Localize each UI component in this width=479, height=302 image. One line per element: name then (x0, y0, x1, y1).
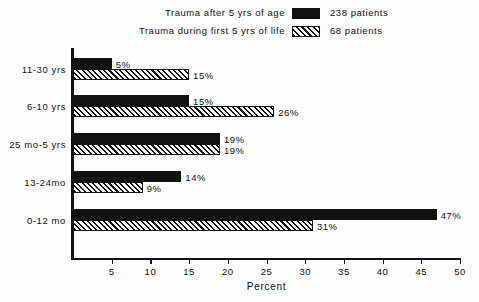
bar-value-label: 31% (317, 221, 338, 232)
bar (73, 106, 274, 117)
bar-value-label: 19% (224, 145, 245, 156)
x-axis-tick-label: 10 (145, 266, 157, 277)
bar (73, 209, 437, 220)
legend-item-count: 238 patients (330, 7, 388, 18)
x-axis-tick-label: 20 (222, 266, 234, 277)
bar-value-label: 14% (185, 172, 206, 183)
bar (73, 133, 220, 144)
bar (73, 58, 112, 69)
x-axis-tick-label: 25 (261, 266, 273, 277)
bar (73, 171, 181, 182)
bar (73, 69, 189, 80)
x-axis-tick (460, 258, 461, 264)
x-axis-tick-label: 35 (338, 266, 350, 277)
bar (73, 144, 220, 155)
x-axis-tick (344, 258, 345, 264)
bar-value-label: 47% (441, 210, 462, 221)
x-axis-tick (150, 258, 151, 264)
bar-value-label: 15% (193, 70, 214, 81)
x-axis-tick-label: 5 (109, 266, 115, 277)
y-axis-category-label: 11-30 yrs (0, 64, 66, 75)
bar-value-label: 9% (147, 183, 162, 194)
legend-item-count: 68 patients (330, 25, 383, 36)
solid-black-swatch-icon (292, 8, 320, 19)
x-axis-tick (267, 258, 268, 264)
bar (73, 182, 143, 193)
bar (73, 220, 313, 231)
x-axis-tick-label: 40 (377, 266, 389, 277)
x-axis-title: Percent (73, 281, 460, 292)
x-axis-tick (383, 258, 384, 264)
x-axis-tick (421, 258, 422, 264)
diagonal-hatch-swatch-icon (292, 26, 320, 37)
x-axis-tick (112, 258, 113, 264)
x-axis-tick (305, 258, 306, 264)
x-axis-tick-label: 15 (183, 266, 195, 277)
y-axis-category-label: 25 mo-5 yrs (0, 139, 66, 150)
x-axis-tick-label: 50 (454, 266, 466, 277)
legend-item-label: Trauma during first 5 yrs of life (120, 25, 285, 36)
legend-item-label: Trauma after 5 yrs of age (120, 7, 285, 18)
x-axis-tick (228, 258, 229, 264)
x-axis-tick-label: 30 (299, 266, 311, 277)
y-axis-category-label: 0-12 mo (0, 215, 66, 226)
bar-chart: Trauma after 5 yrs of age 238 patients T… (0, 0, 479, 302)
bar-value-label: 19% (224, 134, 245, 145)
bar-value-label: 26% (278, 107, 299, 118)
x-axis-tick (189, 258, 190, 264)
x-axis-tick-label: 45 (416, 266, 428, 277)
y-axis-category-label: 6-10 yrs (0, 101, 66, 112)
bar (73, 95, 189, 106)
y-axis-category-label: 13-24mo (0, 177, 66, 188)
plot-area: 5101520253035404550 11-30 yrs6-10 yrs25 … (73, 48, 460, 258)
x-axis-line (71, 258, 460, 260)
